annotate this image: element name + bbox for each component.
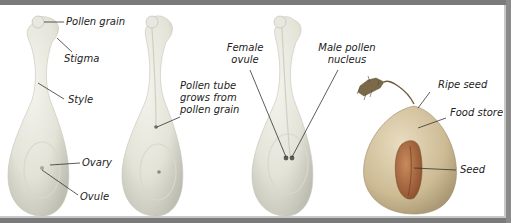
carpel-stage-1	[8, 16, 69, 216]
label-ovule: Ovule	[80, 191, 109, 203]
ripe-seed-illustration	[357, 76, 457, 214]
label-female-ovule: Female ovule	[222, 42, 268, 66]
label-male-nucleus-line2: nucleus	[314, 54, 380, 66]
label-female-ovule-line1: Female	[222, 42, 268, 54]
label-pollen-grain: Pollen grain	[66, 16, 125, 28]
label-pollen-tube-line1: Pollen tube	[180, 80, 236, 92]
label-pollen-tube-line3: pollen grain	[180, 104, 236, 116]
label-pollen-tube: Pollen tube grows from pollen grain	[180, 80, 236, 116]
label-food-store: Food store	[450, 107, 503, 119]
label-male-pollen-nucleus: Male pollen nucleus	[314, 42, 380, 66]
label-style: Style	[68, 94, 93, 106]
label-pollen-tube-line2: grows from	[180, 92, 236, 104]
seed-embryo	[395, 141, 422, 199]
label-seed: Seed	[460, 164, 485, 176]
label-ripe-seed: Ripe seed	[438, 79, 487, 91]
label-female-ovule-line2: ovule	[222, 54, 268, 66]
ovule-dot	[40, 166, 44, 170]
label-stigma: Stigma	[64, 53, 99, 65]
label-ovary: Ovary	[82, 157, 112, 169]
pollen-grain-icon	[32, 16, 44, 28]
carpel-stage-2	[122, 16, 183, 216]
label-male-nucleus-line1: Male pollen	[314, 42, 380, 54]
diagram-artwork	[0, 0, 511, 223]
